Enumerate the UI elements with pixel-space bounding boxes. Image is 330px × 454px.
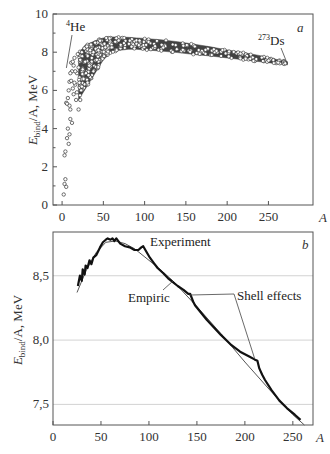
data-point (115, 37, 118, 40)
data-point (67, 142, 70, 145)
data-point (228, 50, 231, 53)
y-tick-label: 4 (42, 121, 49, 136)
y-tick-label: 0 (42, 197, 49, 212)
panel-b-ylabel-main: E (10, 357, 25, 366)
data-point (249, 57, 252, 60)
data-point (69, 117, 72, 120)
data-point (105, 36, 108, 39)
data-point (69, 79, 72, 82)
data-point (73, 56, 76, 59)
data-point (204, 52, 207, 55)
data-point (64, 178, 67, 181)
data-point (98, 39, 101, 42)
data-point (110, 46, 113, 49)
data-point (123, 46, 126, 49)
x-tick-label: 50 (97, 209, 110, 224)
data-point (104, 46, 107, 49)
data-point (204, 48, 207, 51)
data-point (80, 85, 83, 88)
x-tick-label: 150 (187, 429, 207, 444)
panel-b-xlabel: A (315, 430, 324, 445)
data-point (95, 58, 98, 61)
data-point (78, 94, 81, 97)
panel-b-marks (77, 238, 304, 425)
data-point (239, 57, 242, 60)
data-point (73, 81, 76, 84)
data-point (71, 87, 74, 90)
data-point (86, 54, 89, 57)
data-point (67, 89, 70, 92)
data-point (88, 64, 91, 67)
data-point (69, 72, 72, 75)
data-point (87, 73, 90, 76)
data-point (181, 48, 184, 51)
data-point (244, 57, 247, 60)
x-tick-label: 150 (176, 209, 196, 224)
data-point (135, 39, 138, 42)
x-tick-label: 250 (283, 429, 303, 444)
data-point (210, 53, 213, 56)
data-point (277, 61, 280, 64)
data-point (86, 81, 89, 84)
data-point (249, 53, 252, 56)
data-point (115, 49, 118, 52)
x-tick-label: 50 (94, 429, 107, 444)
panel-b-ylabel: Ebind/A, MeV (10, 294, 27, 366)
data-point (68, 104, 71, 107)
data-point (252, 59, 255, 62)
data-point (137, 43, 140, 46)
data-point (82, 77, 85, 80)
data-point (85, 45, 88, 48)
annotation-empiric: Empiric (128, 290, 170, 305)
panel-a: 0501001502002500246810 a A Ebind/A, MeV … (25, 6, 327, 225)
panel-a-xlabel: A (318, 210, 327, 225)
data-point (189, 50, 192, 53)
data-point (122, 42, 125, 45)
data-point (195, 51, 198, 54)
data-point (267, 59, 270, 62)
x-tick-label: 200 (217, 209, 237, 224)
panel-b-label: b (302, 237, 309, 252)
data-point (142, 40, 145, 43)
data-point (232, 50, 235, 53)
y-tick-label: 7,5 (33, 396, 49, 411)
data-point (89, 43, 92, 46)
data-point (143, 37, 146, 40)
y-tick-label: 8 (42, 44, 49, 59)
data-point (197, 48, 200, 51)
data-point (219, 54, 222, 57)
data-point (192, 53, 195, 56)
shell-pointer-line (189, 294, 234, 295)
data-point (162, 46, 165, 49)
data-point (79, 98, 82, 101)
data-point (69, 108, 72, 111)
data-point (92, 51, 95, 54)
data-point (106, 50, 109, 53)
data-point (123, 36, 126, 39)
data-point (147, 40, 150, 43)
data-point (76, 52, 79, 55)
data-point (128, 39, 131, 42)
data-point (185, 43, 188, 46)
data-point (71, 60, 74, 63)
data-point (66, 127, 69, 130)
panel-a-label: a (297, 20, 304, 35)
data-point (164, 39, 167, 42)
data-point (114, 40, 117, 43)
annotation-he-symbol: He (70, 19, 85, 34)
data-point (261, 59, 264, 62)
data-point (83, 60, 86, 63)
data-point (145, 48, 148, 51)
data-point (66, 96, 69, 99)
data-point (81, 72, 84, 75)
x-tick-label: 250 (259, 209, 279, 224)
data-point (65, 185, 68, 188)
data-point (74, 70, 77, 73)
data-point (65, 136, 68, 139)
data-point (174, 44, 177, 47)
panel-a-ylabel-rest: /A, MeV (25, 74, 40, 121)
x-tick-label: 0 (50, 429, 57, 444)
y-tick-label: 8,5 (33, 268, 49, 283)
data-point (133, 47, 136, 50)
panel-a-ylabel: Ebind/A, MeV (25, 74, 42, 146)
